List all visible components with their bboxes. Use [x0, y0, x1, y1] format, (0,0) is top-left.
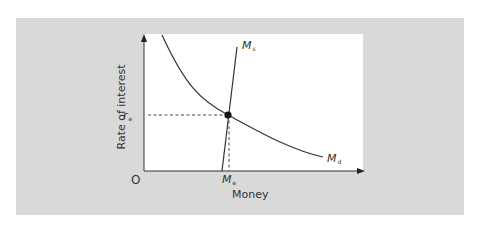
- origin-label: O: [131, 174, 140, 186]
- equilibrium-point: [224, 111, 231, 118]
- me-label: Me: [222, 174, 236, 185]
- md-label: Md: [327, 153, 341, 164]
- ms-label: Ms: [242, 40, 256, 51]
- y-axis-label: Rate of interest: [115, 64, 128, 149]
- x-axis-label: Money: [232, 189, 268, 200]
- plot-area: [144, 34, 363, 171]
